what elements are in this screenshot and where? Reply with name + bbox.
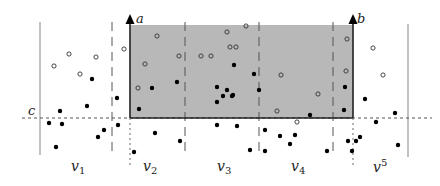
filled-point: [252, 72, 256, 76]
filled-point: [363, 97, 367, 101]
filled-point: [346, 139, 350, 143]
filled-point: [215, 100, 219, 104]
filled-point: [96, 135, 100, 139]
filled-point: [132, 150, 136, 154]
filled-point: [288, 142, 292, 146]
filled-point: [374, 120, 378, 124]
label-v3: v3: [217, 158, 231, 176]
filled-point: [215, 85, 219, 89]
open-point: [122, 47, 126, 51]
filled-point: [225, 88, 229, 92]
filled-point: [90, 77, 94, 81]
filled-point: [116, 123, 120, 127]
filled-point: [393, 111, 397, 115]
filled-point: [343, 85, 347, 89]
filled-point: [263, 128, 267, 132]
filled-point: [54, 145, 58, 149]
open-point: [67, 52, 71, 56]
open-point: [52, 64, 56, 68]
filled-point: [308, 113, 312, 117]
filled-point: [230, 94, 234, 98]
filled-point: [293, 133, 297, 137]
filled-point: [396, 143, 400, 147]
arrow-a-head-icon: [126, 14, 135, 24]
filled-point: [137, 107, 141, 111]
open-point: [94, 55, 98, 59]
filled-point: [248, 148, 252, 152]
filled-point: [153, 131, 157, 135]
label-c: c: [28, 103, 36, 118]
filled-point: [102, 128, 106, 132]
filled-point: [85, 104, 89, 108]
open-point: [371, 46, 375, 50]
label-a: a: [136, 11, 144, 26]
range-query-diagram: a b c v1 v2 v3 v4 v5: [0, 0, 440, 186]
filled-point: [350, 149, 354, 153]
filled-point: [150, 86, 154, 90]
label-v4: v4: [291, 158, 305, 176]
filled-point: [215, 123, 219, 127]
label-b: b: [357, 11, 365, 26]
filled-point: [115, 96, 119, 100]
filled-point: [342, 108, 346, 112]
label-v2: v2: [143, 158, 157, 176]
label-v5: v5: [373, 157, 387, 175]
filled-point: [232, 63, 236, 67]
filled-point: [47, 121, 51, 125]
filled-point: [278, 134, 282, 138]
filled-point: [263, 149, 267, 153]
filled-point: [60, 122, 64, 126]
query-region: [130, 25, 353, 118]
filled-point: [178, 139, 182, 143]
filled-point: [325, 149, 329, 153]
filled-point: [358, 135, 362, 139]
filled-point: [235, 124, 239, 128]
filled-point: [221, 94, 225, 98]
filled-point: [175, 80, 179, 84]
label-v1: v1: [71, 158, 85, 176]
open-point: [381, 73, 385, 77]
open-point: [78, 72, 82, 76]
open-point: [295, 120, 299, 124]
filled-point: [257, 88, 261, 92]
filled-point: [58, 109, 62, 113]
filled-point: [354, 139, 358, 143]
